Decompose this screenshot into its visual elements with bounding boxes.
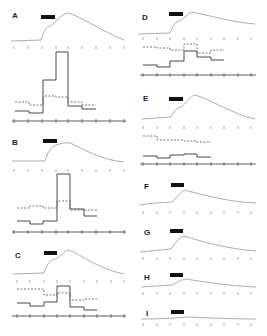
- panel-label-e: E: [143, 94, 149, 103]
- tick-row: [143, 257, 251, 260]
- tick-row: [143, 126, 251, 129]
- stimulus-bar: [43, 139, 57, 143]
- panel-g: G: [140, 228, 256, 260]
- stimulus-bar: [41, 15, 55, 19]
- figure-canvas: A B C D: [0, 0, 267, 336]
- tick-row: [143, 292, 251, 295]
- tick-row: [17, 280, 124, 283]
- panel-f: F: [140, 182, 256, 214]
- response-trace: [138, 12, 255, 34]
- stimulus-bar: [169, 12, 183, 16]
- response-trace: [140, 190, 256, 205]
- dashed-step-series: [15, 96, 96, 105]
- panel-label-a: A: [12, 11, 18, 20]
- stimulus-bar: [44, 251, 57, 255]
- panel-label-d: D: [142, 13, 148, 22]
- response-trace: [141, 279, 256, 287]
- response-trace: [12, 143, 124, 162]
- solid-step-series: [143, 51, 224, 67]
- panel-e: E: [140, 94, 256, 166]
- response-trace: [141, 95, 255, 119]
- panel-a: A: [11, 11, 126, 123]
- tick-row: [14, 169, 124, 172]
- dashed-step-series: [143, 136, 211, 142]
- tick-row: [143, 211, 251, 214]
- response-trace: [11, 13, 124, 41]
- tick-row: [143, 37, 251, 40]
- tick-row: [143, 323, 251, 326]
- stimulus-bar: [170, 229, 183, 233]
- response-trace: [140, 236, 256, 252]
- dashed-step-series: [143, 44, 224, 53]
- stimulus-bar: [171, 183, 184, 187]
- panel-label-b: B: [12, 138, 18, 147]
- solid-step-series: [17, 174, 97, 224]
- panel-label-c: C: [15, 251, 21, 260]
- panel-b: B: [12, 138, 126, 234]
- panel-label-h: H: [144, 273, 150, 282]
- panel-label-g: G: [144, 228, 150, 237]
- panel-i: I: [141, 309, 256, 326]
- solid-step-series: [17, 286, 97, 310]
- response-trace: [13, 250, 124, 274]
- panel-d: D: [138, 12, 256, 77]
- tick-row: [14, 46, 124, 49]
- panel-h: H: [141, 273, 256, 295]
- panel-label-i: I: [146, 309, 148, 318]
- stimulus-bar: [171, 310, 184, 314]
- solid-step-series: [143, 154, 211, 158]
- panel-c: C: [12, 250, 126, 318]
- stimulus-bar: [169, 97, 183, 101]
- response-trace: [141, 317, 256, 319]
- solid-step-series: [15, 52, 96, 113]
- panel-label-f: F: [144, 182, 149, 191]
- stimulus-bar: [170, 273, 183, 277]
